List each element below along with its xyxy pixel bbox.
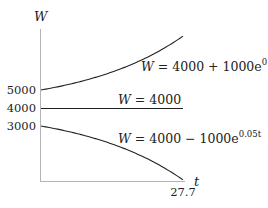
- lower-curve-label-exp: 0.05t: [239, 129, 262, 139]
- upper-curve-label: W = 4000 + 1000e0.05t: [141, 57, 268, 74]
- y-tick-5000: 5000: [7, 83, 36, 97]
- upper-curve-label-exp: 0.05t: [262, 57, 268, 67]
- upper-curve-label-main: = 4000 + 1000e: [154, 59, 262, 74]
- y-tick-3000: 3000: [7, 119, 36, 133]
- chart: W t 5000 4000 3000 27.7 W = 4000 + 1000e…: [0, 0, 268, 208]
- middle-line-label-main: = 4000: [131, 92, 181, 107]
- lower-curve-label-main: = 4000 − 1000e: [131, 131, 239, 146]
- middle-line-label: W = 4000: [118, 92, 181, 107]
- x-tick-27-7: 27.7: [170, 185, 196, 199]
- y-tick-4000: 4000: [7, 101, 36, 115]
- y-axis-label: W: [34, 9, 49, 24]
- lower-curve-label: W = 4000 − 1000e0.05t: [118, 129, 262, 146]
